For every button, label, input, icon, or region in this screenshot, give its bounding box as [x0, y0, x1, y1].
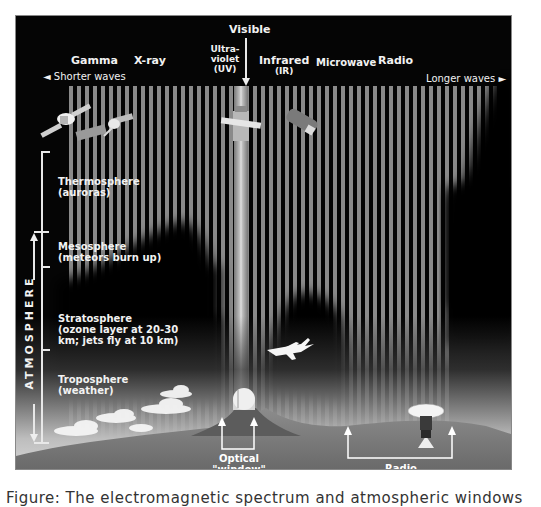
bracket-tick-meso-low [41, 266, 50, 268]
band-label-uv: Ultra- violet (UV) [208, 44, 242, 74]
mesosphere-name: Mesosphere [58, 241, 161, 252]
band-label-xray: X-ray [134, 55, 166, 66]
band-label-ir-line2: (IR) [259, 66, 309, 77]
layer-mesosphere: Mesosphere (meteors burn up) [58, 241, 161, 263]
satellite-xray-icon [75, 113, 133, 140]
band-label-uv-line1: Ultra- [208, 44, 242, 54]
band-label-gamma: Gamma [71, 55, 118, 66]
band-label-infrared: Infrared (IR) [259, 55, 309, 77]
mesosphere-note: (meteors burn up) [58, 252, 161, 263]
arrow-up-icon [30, 233, 38, 241]
stratosphere-name: Stratosphere [58, 313, 178, 324]
radio-window-label: Radio "window" [361, 463, 441, 470]
band-label-microwave: Microwave [316, 57, 376, 68]
visible-label: Visible [229, 24, 271, 35]
layer-thermosphere: Thermosphere (auroras) [58, 176, 140, 198]
band-label-uv-line3: (UV) [208, 64, 242, 74]
optical-window-line1: Optical [212, 453, 266, 464]
longer-waves-label: Longer waves ► [426, 73, 506, 84]
atmosphere-bracket-line [41, 151, 43, 442]
thermosphere-note: (auroras) [58, 187, 140, 198]
band-label-radio: Radio [378, 55, 413, 66]
layer-stratosphere: Stratosphere (ozone layer at 20-30 km; j… [58, 313, 178, 346]
bracket-tick-strat [41, 349, 50, 351]
visible-arrow-shaft [245, 38, 247, 80]
hubble-telescope-icon [221, 106, 261, 141]
troposphere-name: Troposphere [58, 374, 128, 385]
layer-troposphere: Troposphere (weather) [58, 374, 128, 396]
thermosphere-name: Thermosphere [58, 176, 140, 187]
spectrum-diagram: Visible Gamma X-ray Ultra- violet (UV) I… [15, 15, 512, 470]
optical-window-line2: "window" [212, 464, 266, 470]
shorter-waves-label: ◄ Shorter waves [43, 71, 126, 82]
arrow-down-icon [30, 434, 38, 442]
stratosphere-note-2: km; jets fly at 10 km) [58, 335, 178, 346]
band-label-uv-line2: violet [208, 54, 242, 64]
visible-arrow-icon [242, 78, 250, 86]
bracket-tick-top [41, 151, 50, 153]
airplane-icon [267, 338, 314, 360]
atmosphere-axis-label: ATMOSPHERE [23, 258, 36, 408]
infrared-telescope-icon [285, 107, 320, 136]
optical-window-label: Optical "window" [212, 453, 266, 470]
band-label-ir-line1: Infrared [259, 55, 309, 66]
atmosphere-arrow-down-shaft [33, 404, 35, 434]
troposphere-note: (weather) [58, 385, 128, 396]
figure-caption: Figure: The electromagnetic spectrum and… [6, 489, 523, 507]
stratosphere-note-1: (ozone layer at 20-30 [58, 324, 178, 335]
bracket-tick-bottom [34, 442, 49, 444]
